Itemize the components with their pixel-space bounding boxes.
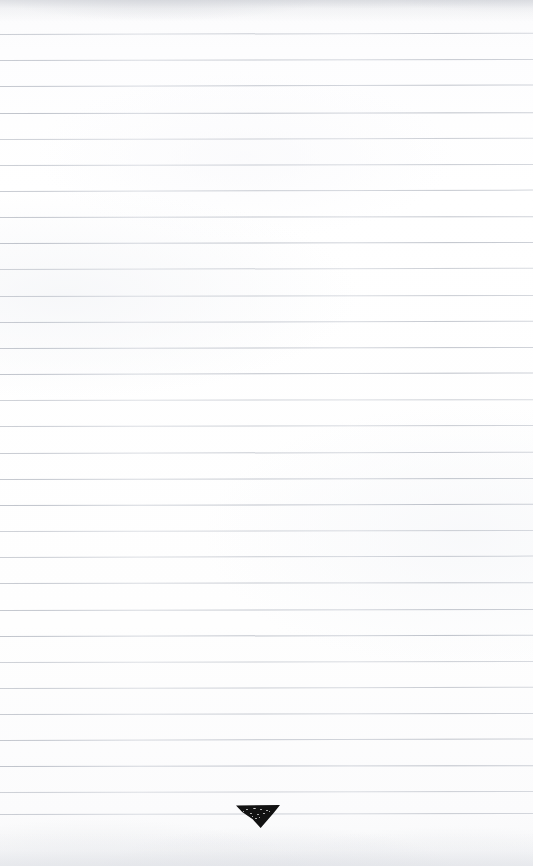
ink-speck [243,811,244,812]
ruled-line [0,321,533,323]
ruled-line [0,164,533,166]
ruled-line [0,713,533,715]
ruled-line [0,268,533,270]
ruled-line [0,373,533,375]
ink-speck [253,808,256,809]
ink-speck [250,813,252,814]
ruled-line [0,556,533,558]
ruled-line [0,85,533,87]
ink-speck [259,817,260,818]
ruled-line [0,112,533,114]
ruled-line [0,478,533,480]
ink-speck [257,814,259,815]
ink-speck [255,818,257,819]
ruled-line [0,425,533,427]
ink-speck [266,810,268,811]
ruled-line [0,33,533,35]
ruled-line [0,687,533,689]
ruled-line [0,295,533,297]
scanned-notebook-page [0,0,533,866]
ruled-line [0,190,533,192]
ruled-line [0,242,533,244]
ink-speck [246,809,248,810]
ruled-line [0,791,533,793]
ruled-line [0,347,533,349]
ruled-line [0,530,533,532]
ruled-line [0,216,533,218]
ruled-line [0,661,533,663]
ruled-line [0,452,533,454]
ink-speck [260,809,262,810]
ruled-line [0,504,533,506]
ink-speck [269,811,270,812]
ruled-line [0,765,533,767]
ruled-line [0,59,533,61]
ruled-line [0,138,533,140]
ruled-line [0,609,533,611]
ruled-line [0,399,533,401]
ruled-line [0,582,533,584]
ruled-line [0,635,533,637]
ink-speck [263,813,265,814]
ruled-lines-layer [0,0,533,866]
ruled-line [0,739,533,741]
ink-speck [252,816,253,817]
